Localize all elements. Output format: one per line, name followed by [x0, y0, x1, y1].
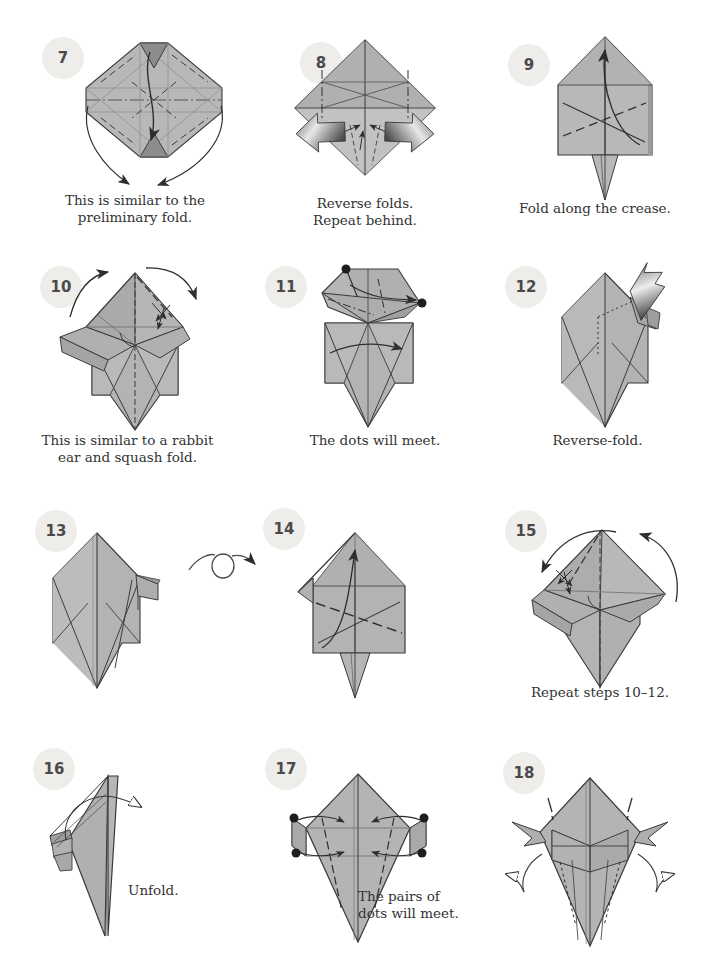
step-10: 10 [0, 245, 250, 500]
meet-dot [420, 814, 429, 823]
step-12-caption: Reverse-fold. [540, 432, 655, 449]
step-15-caption: Repeat steps 10–12. [510, 684, 690, 701]
step-7-caption: This is similar to the preliminary fold. [40, 192, 230, 226]
step-9-caption: Fold along the crease. [505, 200, 685, 217]
meet-dot [292, 849, 301, 858]
step-11-diagram [250, 255, 480, 445]
step-15: 15 [480, 500, 706, 730]
step-10-caption: This is similar to a rabbit ear and squa… [25, 432, 230, 466]
step-9: 9 Fold along the crease. [480, 0, 706, 245]
step-17-caption: The pairs of dots will meet. [358, 888, 478, 922]
step-18-diagram [480, 750, 706, 954]
step-14: 14 [250, 500, 480, 730]
step-17-diagram [250, 752, 480, 952]
step-18: 18 [480, 730, 706, 954]
step-7-diagram [0, 20, 250, 210]
step-12: 12 Reverse-fold. [480, 245, 706, 500]
step-8: 8 [250, 0, 480, 245]
meet-dot [342, 265, 351, 274]
step-14-diagram [250, 518, 480, 713]
origami-instruction-page: 7 [0, 0, 706, 954]
step-11-caption: The dots will meet. [300, 432, 450, 449]
meet-dot [290, 814, 299, 823]
step-15-diagram [480, 512, 706, 702]
step-16-diagram [0, 758, 250, 948]
meet-dot [418, 849, 427, 858]
step-7: 7 [0, 0, 250, 245]
step-16: 16 Unfold. [0, 730, 250, 954]
step-10-diagram [0, 255, 250, 445]
step-11: 11 The dots will mee [250, 245, 480, 500]
step-12-diagram [480, 255, 706, 445]
step-8-caption: Reverse folds. Repeat behind. [290, 195, 440, 229]
step-8-diagram [250, 25, 480, 205]
step-13: 13 [0, 500, 250, 730]
step-17: 17 [250, 730, 480, 954]
step-16-caption: Unfold. [128, 882, 228, 899]
meet-dot [418, 299, 427, 308]
step-9-diagram [480, 20, 706, 210]
